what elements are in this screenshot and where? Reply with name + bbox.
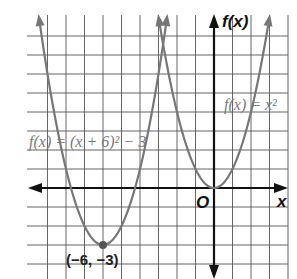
vertex-label: (−6, −3) bbox=[66, 251, 119, 268]
curve-arrow-icon bbox=[264, 14, 273, 27]
curves bbox=[36, 14, 273, 245]
coordinate-graph: f(x) x O f(x) = (x + 6)² − 3 f(x) = x² (… bbox=[0, 0, 297, 279]
y-axis-label: f(x) bbox=[222, 12, 249, 31]
curve-arrow-icon bbox=[36, 14, 45, 27]
y-axis-down-arrow-icon bbox=[209, 265, 219, 279]
curve-label-translated: f(x) = (x + 6)² − 3 bbox=[29, 133, 146, 151]
curve-arrow-icon bbox=[156, 14, 165, 27]
y-axis-up-arrow-icon bbox=[209, 14, 219, 28]
x-axis-left-arrow-icon bbox=[28, 183, 42, 193]
vertex-point bbox=[99, 241, 107, 249]
origin-label: O bbox=[196, 193, 209, 212]
curve-label-parent: f(x) = x² bbox=[224, 96, 278, 114]
x-axis-label: x bbox=[276, 192, 288, 211]
